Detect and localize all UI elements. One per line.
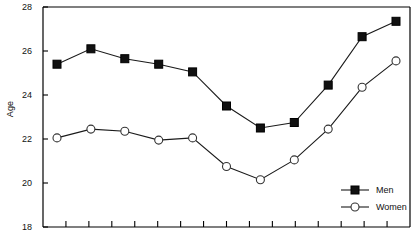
series-markers-women (53, 57, 400, 184)
series-line-women (57, 61, 396, 180)
series-line-men (57, 21, 396, 128)
y-tick-marks (43, 7, 48, 227)
chart-container: Age 28 26 24 22 20 18 Men Women (0, 0, 418, 239)
plot-area (0, 0, 418, 239)
legend-markers (341, 186, 369, 211)
series-markers-men (53, 17, 400, 132)
x-tick-marks (66, 221, 387, 227)
